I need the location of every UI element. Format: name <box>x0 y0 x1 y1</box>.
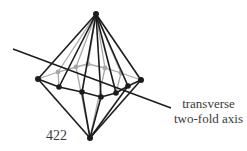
point-group-label: 422 <box>46 128 67 143</box>
polyhedron-drawing <box>0 0 247 151</box>
axis-label-line1: transverse <box>174 96 243 111</box>
crystal-diagram: transverse two-fold axis 422 <box>0 0 247 151</box>
back-edges <box>38 14 141 138</box>
axis-label: transverse two-fold axis <box>174 96 243 126</box>
axis-label-line2: two-fold axis <box>174 111 243 126</box>
